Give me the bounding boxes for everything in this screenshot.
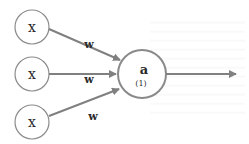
neuron-label: a <box>140 62 149 77</box>
weight-label-1: w <box>83 38 94 51</box>
input-label-3: x <box>28 114 36 130</box>
neuron-node: a (1) <box>118 50 166 98</box>
neuron-sublabel: (1) <box>135 79 146 88</box>
input-node-3: x <box>15 105 49 139</box>
perceptron-diagram: x x x w w w a (1) <box>0 0 249 144</box>
weight-label-3: w <box>87 110 98 123</box>
input-label-2: x <box>28 66 36 82</box>
weight-label-2: w <box>83 73 94 86</box>
input-node-1: x <box>15 10 49 44</box>
input-node-2: x <box>15 57 49 91</box>
input-label-1: x <box>28 19 36 35</box>
edge-arrow-3 <box>49 89 119 116</box>
